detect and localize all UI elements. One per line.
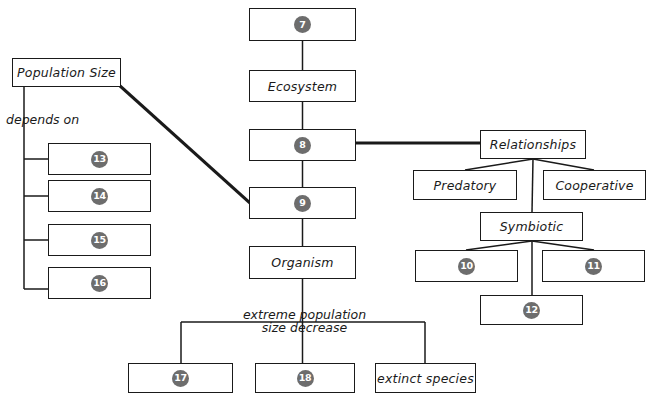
node-population-size-label: Population Size: [17, 65, 116, 80]
node-cooperative[interactable]: Cooperative: [543, 170, 646, 200]
node-18-badge: 18: [297, 370, 314, 387]
connector-relationships-to-cooperative: [533, 159, 594, 170]
node-ecosystem-label: Ecosystem: [268, 79, 337, 94]
node-8-badge: 8: [294, 137, 311, 154]
node-predatory-label: Predatory: [434, 178, 497, 193]
node-11-badge: 11: [585, 258, 602, 275]
node-12[interactable]: 12: [480, 295, 583, 325]
node-symbiotic-label: Symbiotic: [500, 219, 564, 234]
node-16-badge: 16: [91, 275, 108, 292]
node-18[interactable]: 18: [255, 363, 355, 393]
node-13[interactable]: 13: [48, 143, 151, 175]
node-13-badge: 13: [91, 151, 108, 168]
node-12-badge: 12: [523, 302, 540, 319]
node-14-badge: 14: [91, 188, 108, 205]
connector-relationships-to-predatory: [465, 159, 533, 170]
node-ecosystem[interactable]: Ecosystem: [249, 70, 356, 102]
node-organism-label: Organism: [271, 255, 333, 270]
node-11[interactable]: 11: [542, 250, 645, 282]
node-relationships[interactable]: Relationships: [480, 130, 586, 159]
node-organism[interactable]: Organism: [249, 246, 356, 279]
annotation-depends-on: depends on: [6, 112, 79, 127]
annotation-extreme-population-decrease: extreme population size decrease: [232, 308, 377, 334]
node-cooperative-label: Cooperative: [555, 178, 633, 193]
node-10-badge: 10: [458, 258, 475, 275]
node-16[interactable]: 16: [48, 267, 151, 299]
node-extinct-species[interactable]: extinct species: [375, 363, 476, 393]
node-7[interactable]: 7: [249, 8, 356, 41]
node-population-size[interactable]: Population Size: [12, 58, 121, 87]
node-15-badge: 15: [91, 232, 108, 249]
node-symbiotic[interactable]: Symbiotic: [480, 212, 583, 241]
node-10[interactable]: 10: [415, 250, 518, 282]
node-7-badge: 7: [294, 16, 311, 33]
node-relationships-label: Relationships: [490, 137, 576, 152]
node-9[interactable]: 9: [249, 187, 356, 219]
node-14[interactable]: 14: [48, 180, 151, 212]
node-17[interactable]: 17: [128, 363, 233, 393]
connector-symbiotic-to-11: [532, 241, 594, 250]
node-extinct-species-label: extinct species: [377, 371, 474, 386]
node-15[interactable]: 15: [48, 224, 151, 256]
connector-symbiotic-to-10: [466, 241, 532, 250]
connector-relationships-to-symbiotic: [532, 159, 533, 212]
node-8[interactable]: 8: [249, 129, 356, 161]
node-predatory[interactable]: Predatory: [413, 170, 517, 200]
node-9-badge: 9: [294, 195, 311, 212]
node-17-badge: 17: [172, 370, 189, 387]
concept-map-canvas: 7 Ecosystem 8 9 Organism Population Size…: [0, 0, 655, 400]
